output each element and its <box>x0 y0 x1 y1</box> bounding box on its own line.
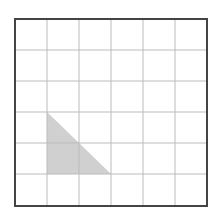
grid-diagram <box>0 0 215 220</box>
grid-lines <box>15 19 207 206</box>
